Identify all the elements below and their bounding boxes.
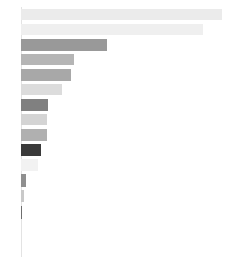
bar [21,99,48,111]
bar [21,144,41,156]
bar [21,84,62,95]
bar [21,206,22,219]
bar [21,24,203,35]
bar [21,69,71,81]
bar [21,174,26,187]
bar [21,190,24,202]
bar-chart [0,0,226,261]
plot-area [0,0,226,261]
bar [21,129,47,141]
bar [21,9,222,20]
bar [21,39,107,51]
bar [21,159,38,171]
bar [21,114,47,125]
bar [21,54,74,65]
